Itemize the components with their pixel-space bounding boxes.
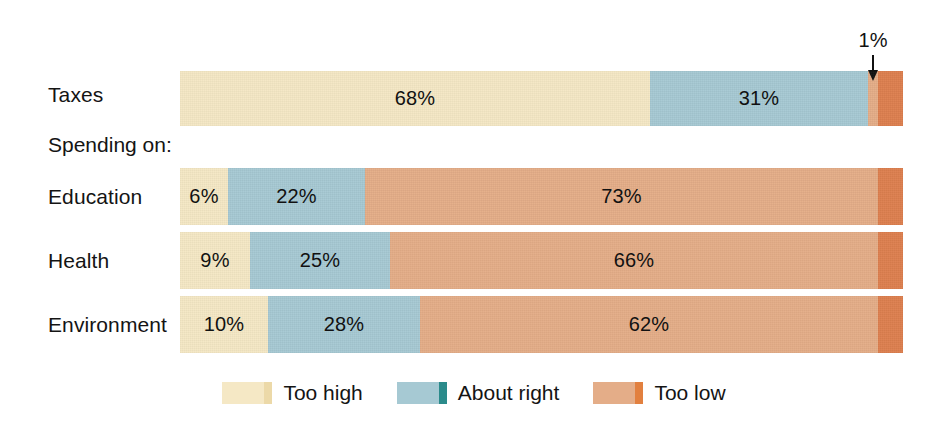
- row-label-environment: Environment: [48, 313, 167, 337]
- legend-label-about-right: About right: [458, 381, 560, 405]
- bar-end-edge-education: [878, 168, 903, 225]
- legend-item-too-high[interactable]: Too high: [222, 381, 362, 405]
- legend-swatch-too-low-icon: [593, 382, 643, 404]
- bar-segment-health-too-high: 9%: [180, 232, 250, 289]
- bar-segment-health-too-low: 66%: [390, 232, 878, 289]
- bar-value-environment-too-low: 62%: [629, 313, 670, 336]
- bar-taxes: 68% 31%: [180, 71, 903, 126]
- legend-swatch-about-right-icon: [397, 382, 447, 404]
- stacked-bar-chart: Taxes Spending on: Education Health Envi…: [0, 0, 948, 432]
- bar-segment-environment-too-high: 10%: [180, 296, 268, 353]
- bar-environment: 10% 28% 62%: [180, 296, 903, 353]
- row-label-education: Education: [48, 185, 142, 209]
- bar-segment-education-too-low: 73%: [365, 168, 878, 225]
- bar-value-education-too-low: 73%: [601, 185, 642, 208]
- bar-value-environment-too-high: 10%: [204, 313, 245, 336]
- bar-value-taxes-too-high: 68%: [395, 87, 436, 110]
- bar-segment-education-too-high: 6%: [180, 168, 228, 225]
- bar-end-edge-health: [878, 232, 903, 289]
- callout-one-percent: 1%: [833, 30, 913, 81]
- legend-item-about-right[interactable]: About right: [397, 381, 560, 405]
- bar-value-education-about-right: 22%: [276, 185, 317, 208]
- bar-segment-environment-about-right: 28%: [268, 296, 420, 353]
- bar-segment-health-about-right: 25%: [250, 232, 390, 289]
- callout-label: 1%: [833, 30, 913, 50]
- bar-value-health-too-low: 66%: [614, 249, 655, 272]
- group-heading-spending-on: Spending on:: [48, 133, 172, 157]
- bar-value-environment-about-right: 28%: [324, 313, 365, 336]
- row-label-health: Health: [48, 249, 109, 273]
- bar-value-education-too-high: 6%: [189, 185, 218, 208]
- bar-value-health-about-right: 25%: [300, 249, 341, 272]
- bar-segment-taxes-too-high: 68%: [180, 71, 650, 126]
- legend: Too high About right Too low: [0, 381, 948, 405]
- bar-segment-environment-too-low: 62%: [420, 296, 878, 353]
- bar-value-taxes-about-right: 31%: [739, 87, 780, 110]
- bar-segment-education-about-right: 22%: [228, 168, 365, 225]
- legend-item-too-low[interactable]: Too low: [593, 381, 725, 405]
- bar-education: 6% 22% 73%: [180, 168, 903, 225]
- legend-label-too-high: Too high: [283, 381, 362, 405]
- bar-value-health-too-high: 9%: [200, 249, 229, 272]
- legend-swatch-too-high-icon: [222, 382, 272, 404]
- bar-end-edge-environment: [878, 296, 903, 353]
- row-label-taxes: Taxes: [48, 83, 103, 107]
- legend-label-too-low: Too low: [654, 381, 725, 405]
- bar-health: 9% 25% 66%: [180, 232, 903, 289]
- down-arrow-icon: [866, 55, 880, 81]
